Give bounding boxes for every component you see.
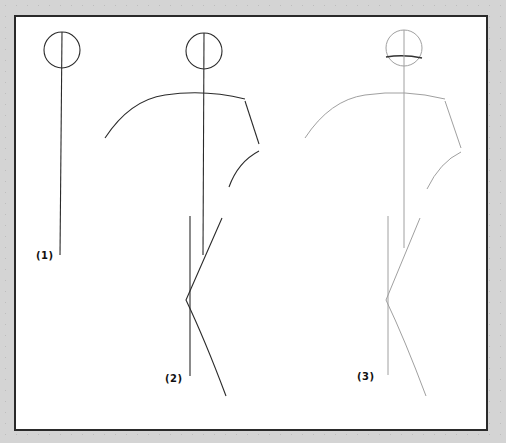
figure-drawing <box>0 0 506 443</box>
leg-line <box>186 218 226 396</box>
arm-curve <box>427 152 461 189</box>
step-label-2: (2) <box>165 373 183 384</box>
arm-curve <box>229 151 259 187</box>
spine-line <box>60 32 62 255</box>
figure-step-1 <box>44 32 80 255</box>
step-label-1: (1) <box>36 250 54 261</box>
leg-line <box>386 218 426 396</box>
figure-step-3 <box>305 30 461 396</box>
step-label-3: (3) <box>357 371 375 382</box>
figure-step-2 <box>105 33 259 396</box>
arm-line <box>445 101 461 148</box>
arm-line <box>245 101 259 144</box>
shoulder-curve <box>305 93 445 138</box>
shoulder-curve <box>105 93 245 138</box>
spine-line <box>203 33 204 255</box>
